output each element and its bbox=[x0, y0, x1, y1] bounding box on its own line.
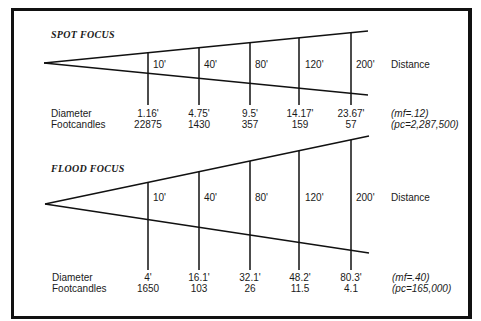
distance-label: 40' bbox=[204, 59, 217, 70]
footcandles-value: 57 bbox=[326, 119, 376, 130]
distance-label: 120' bbox=[305, 192, 324, 203]
footcandles-value: 1430 bbox=[174, 119, 224, 130]
footcandles-row-label: Footcandles bbox=[51, 119, 105, 130]
diameter-value: 14.17' bbox=[275, 108, 325, 119]
footcandles-value: 4.1 bbox=[326, 283, 376, 294]
flood-focus-title: FLOOD FOCUS bbox=[51, 163, 125, 174]
distance-label: 10' bbox=[153, 59, 166, 70]
distance-label: 40' bbox=[204, 192, 217, 203]
footcandles-value: 26 bbox=[225, 283, 275, 294]
distance-label: 120' bbox=[305, 59, 324, 70]
diameter-value: 48.2' bbox=[275, 272, 325, 283]
diameter-value: 80.3' bbox=[326, 272, 376, 283]
diameter-value: 16.1' bbox=[174, 272, 224, 283]
diameter-value: 1.16' bbox=[123, 108, 173, 119]
distance-label: 200' bbox=[356, 59, 375, 70]
diameter-row-label: Diameter bbox=[52, 272, 93, 283]
footcandles-value: 22875 bbox=[123, 119, 173, 130]
distance-label: 200' bbox=[356, 192, 375, 203]
diameter-value: 4' bbox=[123, 272, 173, 283]
distance-label: 80' bbox=[255, 192, 268, 203]
spot-focus-title: SPOT FOCUS bbox=[51, 29, 115, 40]
diameter-row-label: Diameter bbox=[51, 108, 92, 119]
pc-note: (pc=2,287,500) bbox=[391, 119, 459, 130]
footcandles-row-label: Footcandles bbox=[52, 283, 106, 294]
footcandles-value: 159 bbox=[275, 119, 325, 130]
distance-axis-label: Distance bbox=[391, 59, 430, 70]
diameter-value: 32.1' bbox=[225, 272, 275, 283]
diameter-value: 9.5' bbox=[225, 108, 275, 119]
distance-label: 80' bbox=[255, 59, 268, 70]
footcandles-value: 103 bbox=[174, 283, 224, 294]
mf-note: (mf=.12) bbox=[391, 108, 429, 119]
flood-beam-cone bbox=[45, 136, 369, 270]
pc-note: (pc=165,000) bbox=[392, 283, 451, 294]
mf-note: (mf=.40) bbox=[392, 272, 430, 283]
distance-axis-label: Distance bbox=[391, 192, 430, 203]
diameter-value: 23.67' bbox=[326, 108, 376, 119]
footcandles-value: 1650 bbox=[123, 283, 173, 294]
footcandles-value: 11.5 bbox=[275, 283, 325, 294]
footcandles-value: 357 bbox=[225, 119, 275, 130]
diameter-value: 4.75' bbox=[174, 108, 224, 119]
distance-label: 10' bbox=[153, 192, 166, 203]
